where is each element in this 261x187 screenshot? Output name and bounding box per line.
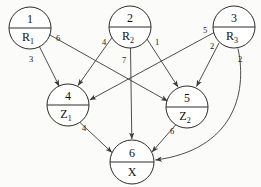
node-n6-number: 6 bbox=[129, 146, 135, 160]
edge-n2-n6 bbox=[131, 48, 132, 139]
node-n6-name: X bbox=[128, 165, 137, 179]
edge-weight-n3-n5: 2 bbox=[210, 41, 214, 51]
edge-weight-n2-n5: 1 bbox=[155, 37, 159, 47]
edge-n2-n5 bbox=[147, 39, 178, 87]
edge-weight-n1-n5: 6 bbox=[56, 33, 60, 43]
node-n4-number: 4 bbox=[65, 89, 71, 103]
node-n5-number: 5 bbox=[184, 91, 190, 105]
edge-n3-n5 bbox=[197, 43, 220, 87]
edge-n2-n4 bbox=[78, 38, 112, 86]
edge-weight-n3-n4: 5 bbox=[203, 25, 207, 35]
node-n6[interactable]: 6 X bbox=[110, 140, 154, 184]
node-n1[interactable]: 1 R1 bbox=[9, 7, 51, 49]
node-n4[interactable]: 4 Z1 bbox=[47, 84, 89, 126]
edge-n1-n4 bbox=[40, 47, 60, 86]
edge-weight-n2-n6: 7 bbox=[122, 55, 126, 65]
node-n5[interactable]: 5 Z2 bbox=[166, 86, 208, 128]
node-n3-number: 3 bbox=[231, 11, 237, 25]
node-n2[interactable]: 2 R2 bbox=[109, 6, 151, 48]
graph-svg: 3 6 4 1 7 5 2 2 4 6 1 R1 2 bbox=[0, 0, 261, 187]
diagram-canvas: 3 6 4 1 7 5 2 2 4 6 1 R1 2 bbox=[0, 0, 261, 187]
nodes-layer: 1 R1 2 R2 3 R3 4 Z1 bbox=[9, 6, 255, 184]
edge-weight-n1-n4: 3 bbox=[29, 54, 33, 64]
node-n3[interactable]: 3 R3 bbox=[213, 6, 255, 48]
edge-weight-n5-n6: 6 bbox=[170, 126, 174, 136]
edge-weight-n3-n6: 2 bbox=[238, 54, 242, 64]
node-n1-number: 1 bbox=[27, 12, 33, 26]
node-n2-number: 2 bbox=[127, 11, 133, 25]
